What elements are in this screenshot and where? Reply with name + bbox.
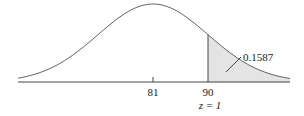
cutoff-label: 90 bbox=[203, 86, 215, 98]
mean-label: 81 bbox=[148, 86, 159, 98]
normal-curve-chart: 81 90 z = 1 0.1587 bbox=[0, 0, 304, 116]
z-label: z = 1 bbox=[198, 99, 222, 111]
area-label: 0.1587 bbox=[243, 51, 274, 63]
